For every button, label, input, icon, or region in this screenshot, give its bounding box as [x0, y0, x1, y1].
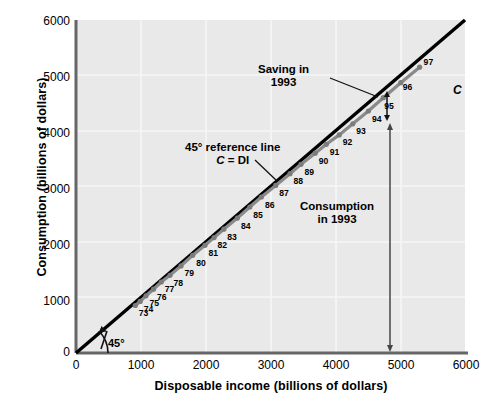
point-label-95: 95	[384, 101, 394, 111]
data-point	[247, 204, 252, 209]
data-point	[212, 235, 217, 240]
annotation-refline-c: C	[216, 154, 224, 166]
data-point	[133, 303, 138, 308]
annotation-saving-line2: 1993	[258, 76, 309, 89]
annotation-45-degree-angle: 45°	[108, 337, 125, 349]
data-point	[298, 162, 303, 167]
data-point	[159, 279, 164, 284]
point-label-87: 87	[279, 188, 289, 198]
point-label-91: 91	[330, 147, 340, 157]
data-point	[221, 227, 226, 232]
annotation-consumption-line2: in 1993	[300, 213, 374, 226]
annotation-saving-in-1993: Saving in 1993	[258, 63, 309, 89]
data-point	[417, 65, 422, 70]
annotation-reference-line: 45° reference line C = DI	[185, 141, 280, 167]
data-point	[167, 273, 172, 278]
data-point	[287, 171, 292, 176]
data-point	[337, 132, 342, 137]
point-label-96: 96	[403, 82, 413, 92]
point-label-83: 83	[227, 232, 237, 242]
annotation-consumption-in-1993: Consumption in 1993	[300, 200, 374, 226]
annotation-curve-label-c: C	[453, 83, 462, 97]
annotation-refline-line1: 45° reference line	[185, 141, 280, 154]
data-point	[313, 151, 318, 156]
point-label-78: 78	[174, 278, 184, 288]
point-label-93: 93	[356, 126, 366, 136]
annotation-refline-eq: = DI	[225, 154, 250, 166]
annotation-refline-line2: C = DI	[185, 154, 280, 167]
data-point	[235, 216, 240, 221]
point-label-84: 84	[241, 221, 251, 231]
data-point	[259, 194, 264, 199]
point-label-79: 79	[185, 268, 195, 278]
data-point	[190, 253, 195, 258]
data-point	[273, 183, 278, 188]
data-point	[178, 263, 183, 268]
annotation-saving-line1: Saving in	[258, 63, 309, 76]
point-label-90: 90	[319, 156, 329, 166]
point-label-82: 82	[218, 240, 228, 250]
data-point	[324, 142, 329, 147]
point-label-97: 97	[424, 57, 434, 67]
data-point	[350, 121, 355, 126]
data-point	[143, 293, 148, 298]
point-label-80: 80	[196, 258, 206, 268]
consumption-function-chart: Consumption (billions of dollars) Dispos…	[0, 0, 490, 403]
point-label-94: 94	[372, 114, 382, 124]
data-point	[366, 108, 371, 113]
point-label-89: 89	[304, 167, 314, 177]
point-label-88: 88	[293, 176, 303, 186]
data-point	[138, 299, 143, 304]
point-label-92: 92	[343, 137, 353, 147]
annotation-consumption-line1: Consumption	[300, 200, 374, 213]
data-point	[202, 243, 207, 248]
point-label-85: 85	[253, 210, 263, 220]
data-point	[151, 287, 156, 292]
plot-area	[0, 0, 490, 403]
point-label-86: 86	[265, 200, 275, 210]
